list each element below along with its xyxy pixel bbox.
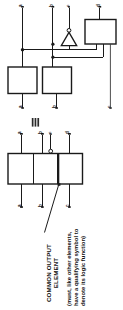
equivalence-bar-3	[37, 118, 39, 127]
terminal-tick-m-out-a	[20, 206, 23, 208]
junction-dot-b-lower	[51, 56, 54, 59]
equivalence-bar-1	[32, 118, 34, 127]
terminal-tick-m-in-b	[41, 133, 44, 135]
terminal-tick-m-out-c	[68, 206, 71, 208]
figure-canvas: COMMON OUTPUT ELEMENT (must, like other …	[0, 0, 123, 310]
merged-block-outline	[8, 154, 83, 185]
terminal-tick-in-c	[68, 6, 70, 7]
terminal-tick-out-a	[21, 107, 24, 109]
common-output-separator	[57, 154, 59, 185]
terminal-tick-in-d	[99, 6, 102, 8]
block-left	[8, 67, 37, 94]
junction-dot-b-upper	[51, 43, 54, 46]
equivalence-bar-2	[35, 118, 37, 127]
terminal-tick-out-b	[55, 107, 58, 109]
top-input-terminals	[21, 6, 101, 8]
terminal-tick-m-out-b	[41, 206, 44, 208]
block-right	[85, 20, 116, 45]
bottom-output-terminals	[20, 206, 71, 208]
terminal-tick-in-a	[21, 6, 24, 8]
junction-dot-a	[21, 48, 24, 51]
logic-diagram-svg	[0, 0, 123, 310]
terminal-tick-m-in-c	[50, 133, 52, 134]
block-middle	[43, 67, 72, 94]
terminal-tick-m-in-a	[20, 133, 23, 135]
top-diagram-group	[8, 6, 116, 109]
bottom-input-terminals	[20, 133, 71, 135]
top-output-terminals	[21, 107, 111, 109]
terminal-tick-out-c	[109, 107, 111, 109]
leader-line	[45, 185, 59, 233]
merged-input-bubble-icon	[49, 149, 53, 153]
bottom-diagram-group	[8, 133, 83, 233]
terminal-tick-m-in-d	[68, 133, 71, 135]
terminal-tick-in-b	[52, 6, 55, 8]
inverter-triangle-icon	[61, 32, 76, 45]
equivalence-mark	[32, 118, 39, 127]
